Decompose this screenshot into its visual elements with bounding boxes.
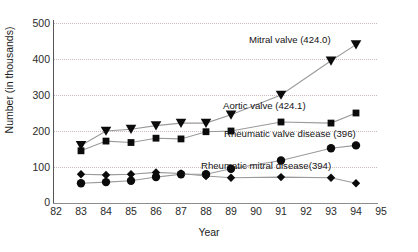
data-point [128,139,135,146]
data-point [103,138,110,145]
series-layer [0,0,418,252]
series-label-rheumatic-mitral-disease: Rheumatic mitral disease(394) [201,160,331,171]
series-label-aortic-valve: Aortic valve (424.1) [223,100,306,111]
data-point [277,173,285,181]
data-point [77,179,85,187]
data-point [353,110,360,117]
data-point [278,119,285,126]
data-point [352,179,360,187]
series-label-mitral-valve: Mitral valve (424.0) [249,34,331,45]
data-point [78,147,85,154]
data-point [327,144,335,152]
line-chart: 500 400 300 200 100 0 82 83 84 85 86 87 … [0,0,418,252]
data-point [328,120,335,127]
data-point [102,178,110,186]
data-point [77,170,85,178]
data-point [153,135,160,142]
data-point [226,110,237,119]
data-point [352,141,360,149]
data-point [127,170,135,178]
data-point [178,136,185,143]
data-point [326,56,337,65]
series-label-rheumatic-valve-disease: Rheumatic valve disease (396) [224,127,356,138]
data-point [327,174,335,182]
data-point [203,128,210,135]
data-point [351,40,362,49]
data-point [102,171,110,179]
data-point [276,91,287,100]
data-point [227,174,235,182]
